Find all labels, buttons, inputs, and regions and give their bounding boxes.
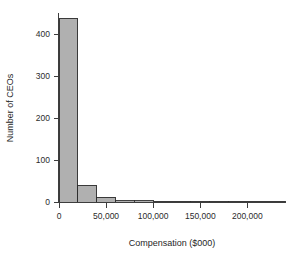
y-tick-label: 100 [36, 155, 50, 165]
histogram-bar [247, 201, 266, 202]
plot-background [0, 0, 290, 264]
histogram-bar [78, 185, 97, 202]
x-tick-label: 50,000 [93, 211, 119, 221]
histogram-bar [172, 201, 191, 202]
x-axis-title: Compensation ($000) [129, 238, 216, 248]
x-tick-label: 100,000 [138, 211, 169, 221]
x-tick-label: 150,000 [185, 211, 216, 221]
y-tick-label: 400 [36, 29, 50, 39]
x-tick-label: 200,000 [232, 211, 263, 221]
y-tick-label: 300 [36, 71, 50, 81]
histogram-bar [153, 201, 172, 202]
histogram-bar [191, 201, 210, 202]
chart-canvas: 0100200300400 050,000100,000150,000200,0… [0, 0, 290, 264]
y-tick-label: 0 [45, 197, 50, 207]
y-tick-label: 200 [36, 113, 50, 123]
histogram-figure: 0100200300400 050,000100,000150,000200,0… [0, 0, 290, 264]
histogram-bar [266, 201, 285, 202]
y-axis-title: Number of CEOs [5, 73, 15, 142]
histogram-bar [97, 197, 116, 202]
histogram-bar [134, 201, 153, 202]
histogram-bar [59, 18, 78, 202]
x-tick-label: 0 [57, 211, 62, 221]
histogram-bar [229, 201, 248, 202]
histogram-bar [116, 201, 135, 202]
histogram-bar [210, 201, 229, 202]
